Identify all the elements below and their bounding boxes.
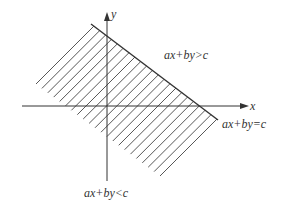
y-axis-arrow-icon (104, 12, 110, 21)
hatch-line (160, 119, 217, 176)
boundary-label: ax+by=c (222, 118, 266, 130)
upper-region-label: ax+by>c (164, 49, 208, 61)
x-axis-label: x (250, 100, 255, 112)
lower-region-label: ax+by<c (84, 187, 128, 199)
x-axis-arrow-icon (240, 103, 249, 109)
diagram-canvas (0, 0, 283, 215)
y-axis-label: y (111, 8, 116, 20)
